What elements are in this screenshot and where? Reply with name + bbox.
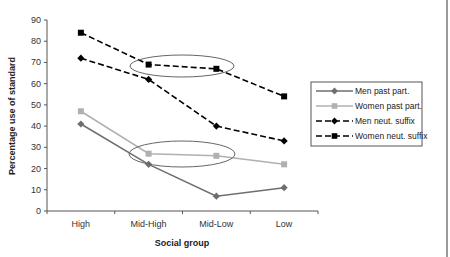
legend-label: Men neut. suffix	[355, 116, 416, 126]
y-tick-label: 40	[31, 121, 41, 131]
series-line	[81, 58, 284, 141]
series-women-neut-suffix	[78, 30, 287, 100]
series-line	[81, 33, 284, 97]
x-tick-label: Mid-High	[131, 219, 167, 229]
y-axis-title: Percentage use of standard	[7, 57, 17, 175]
square-marker	[213, 153, 219, 159]
x-axis-title: Social group	[155, 238, 210, 248]
page-edge-border	[446, 0, 448, 257]
diamond-marker	[77, 55, 84, 62]
series-line	[81, 111, 284, 164]
y-tick-label: 10	[31, 185, 41, 195]
diamond-marker	[77, 120, 84, 127]
x-tick-label: Mid-Low	[199, 219, 234, 229]
square-marker	[146, 151, 152, 157]
legend-label: Women neut. suffix	[355, 131, 428, 141]
y-tick-label: 60	[31, 79, 41, 89]
axes: 0102030405060708090HighMid-HighMid-LowLo…	[31, 15, 318, 229]
square-marker	[281, 93, 287, 99]
y-tick-label: 30	[31, 142, 41, 152]
diamond-marker	[281, 184, 288, 191]
y-tick-label: 70	[31, 57, 41, 67]
diamond-marker	[213, 193, 220, 200]
square-marker	[146, 62, 152, 68]
square-marker	[281, 161, 287, 167]
square-marker	[213, 66, 219, 72]
line-chart: 0102030405060708090HighMid-HighMid-LowLo…	[0, 0, 450, 257]
legend: Men past part.Women past part.Men neut. …	[311, 82, 428, 146]
x-tick-label: High	[72, 219, 91, 229]
x-tick-label: Low	[276, 219, 293, 229]
y-tick-label: 0	[36, 206, 41, 216]
y-tick-label: 80	[31, 36, 41, 46]
legend-label: Men past part.	[355, 86, 409, 96]
diamond-marker	[281, 137, 288, 144]
y-tick-label: 50	[31, 100, 41, 110]
y-tick-label: 20	[31, 164, 41, 174]
series-men-neut-suffix	[77, 55, 287, 145]
series-women-past-part	[78, 108, 287, 167]
square-marker	[332, 133, 338, 139]
square-marker	[78, 30, 84, 36]
square-marker	[78, 108, 84, 114]
square-marker	[332, 103, 338, 109]
legend-label: Women past part.	[355, 101, 422, 111]
y-tick-label: 90	[31, 15, 41, 25]
